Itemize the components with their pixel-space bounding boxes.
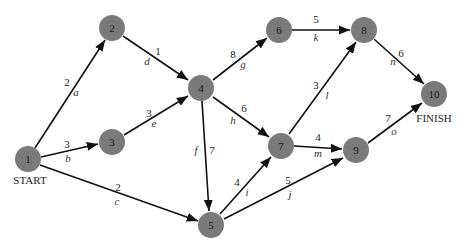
duration-a: 2 (64, 76, 70, 88)
activity-a: a (73, 86, 79, 98)
activity-i: i (245, 186, 248, 198)
node-10: 10 (421, 81, 447, 107)
duration-c: 2 (115, 181, 121, 193)
activity-d: d (144, 55, 150, 67)
activity-c: c (115, 195, 120, 207)
finish-label: FINISH (416, 112, 452, 124)
edge-labels: 2 a 3 b 2 c 1 d 3 e f 7 8 g 6 h 4 i 5 j … (64, 13, 404, 207)
duration-i: 4 (234, 176, 240, 188)
duration-k: 5 (313, 13, 319, 25)
node-3: 3 (99, 129, 125, 155)
node-4: 4 (188, 75, 214, 101)
duration-j: 5 (285, 174, 291, 186)
edge-e (124, 96, 188, 135)
activity-l: l (325, 89, 328, 101)
node-4-label: 4 (198, 82, 204, 94)
network-diagram: 2 a 3 b 2 c 1 d 3 e f 7 8 g 6 h 4 i 5 j … (0, 0, 464, 251)
duration-h: 6 (241, 102, 247, 114)
node-3-label: 3 (109, 136, 115, 148)
activity-k: k (314, 31, 320, 43)
node-5-label: 5 (208, 219, 214, 231)
node-6-label: 6 (276, 24, 282, 36)
duration-f: 7 (209, 144, 215, 156)
duration-o: 7 (385, 112, 391, 124)
activity-n: n (390, 55, 396, 67)
duration-d: 1 (155, 45, 161, 57)
duration-n: 6 (398, 47, 404, 59)
activity-j: j (286, 188, 291, 200)
edge-a (35, 40, 105, 148)
node-6: 6 (266, 17, 292, 43)
activity-f: f (194, 144, 199, 156)
activity-g: g (240, 58, 246, 70)
edge-c (40, 165, 198, 221)
activity-m: m (314, 147, 322, 159)
node-1: 1 (15, 146, 41, 172)
start-label: START (13, 174, 47, 186)
activity-o: o (391, 125, 397, 137)
diagram-svg: 2 a 3 b 2 c 1 d 3 e f 7 8 g 6 h 4 i 5 j … (0, 0, 464, 251)
node-1-label: 1 (25, 153, 31, 165)
node-7: 7 (268, 133, 294, 159)
activity-b: b (65, 152, 71, 164)
edge-d (123, 36, 188, 80)
node-8: 8 (351, 17, 377, 43)
activity-h: h (230, 114, 236, 126)
duration-g: 8 (230, 48, 236, 60)
node-8-label: 8 (361, 24, 367, 36)
edge-o (368, 103, 422, 143)
duration-b: 3 (64, 138, 70, 150)
node-7-label: 7 (278, 140, 284, 152)
node-9: 9 (343, 137, 369, 163)
duration-l: 3 (313, 79, 319, 91)
node-5: 5 (198, 212, 224, 238)
node-10-label: 10 (429, 88, 441, 100)
node-2-label: 2 (109, 22, 115, 34)
edge-f (202, 101, 209, 211)
node-2: 2 (99, 15, 125, 41)
activity-e: e (152, 117, 157, 129)
node-9-label: 9 (353, 144, 359, 156)
duration-m: 4 (315, 131, 321, 143)
edge-n (374, 39, 424, 84)
edge-l (289, 42, 356, 134)
